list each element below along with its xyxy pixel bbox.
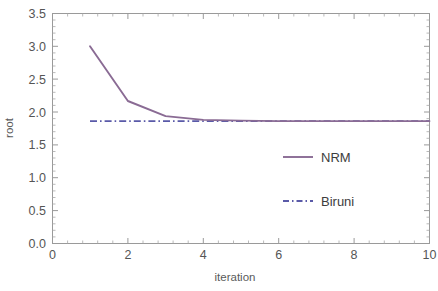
y-axis-title: root xyxy=(3,117,15,138)
legend-label-biruni: Biruni xyxy=(321,194,354,209)
legend-label-nrm: NRM xyxy=(321,150,351,165)
chart-legend: NRM Biruni xyxy=(283,150,354,209)
y-tick-label: 1.0 xyxy=(29,171,46,185)
chart-figure: 0.0 0.5 1.0 1.5 2.0 2.5 3.0 3.5 0 2 4 6 … xyxy=(0,0,438,291)
x-tick-labels: 0 2 4 6 8 10 xyxy=(49,248,436,262)
y-tick-label: 1.5 xyxy=(29,138,46,152)
x-tick-label: 8 xyxy=(351,248,358,262)
y-tick-label: 2.0 xyxy=(29,106,46,120)
x-tick-label: 4 xyxy=(200,248,207,262)
x-tick-label: 6 xyxy=(275,248,282,262)
y-tick-label: 3.5 xyxy=(29,7,46,21)
x-tick-label: 2 xyxy=(124,248,131,262)
y-tick-major xyxy=(53,14,59,244)
y-tick-labels: 0.0 0.5 1.0 1.5 2.0 2.5 3.0 3.5 xyxy=(29,7,46,251)
y-tick-label: 0.5 xyxy=(29,204,46,218)
y-tick-label: 0.0 xyxy=(29,237,46,251)
x-axis-title: iteration xyxy=(215,271,256,283)
y-axis-ticks xyxy=(53,14,430,244)
legend-entry-nrm: NRM xyxy=(283,150,351,165)
legend-entry-biruni: Biruni xyxy=(283,194,354,209)
chart-svg: 0.0 0.5 1.0 1.5 2.0 2.5 3.0 3.5 0 2 4 6 … xyxy=(0,0,438,291)
plot-frame xyxy=(52,13,430,244)
y-tick-major-right xyxy=(424,14,430,244)
x-axis-ticks xyxy=(53,14,430,244)
x-tick-major-top xyxy=(53,14,430,20)
y-tick-label: 3.0 xyxy=(29,40,46,54)
x-tick-label: 0 xyxy=(49,248,56,262)
x-tick-label: 10 xyxy=(423,248,437,262)
y-tick-label: 2.5 xyxy=(29,73,46,87)
series-nrm xyxy=(90,46,430,121)
x-tick-major xyxy=(53,238,430,244)
